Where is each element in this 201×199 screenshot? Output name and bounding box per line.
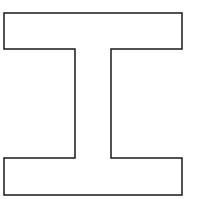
- i-beam-outline: [4, 13, 182, 195]
- diagram-canvas: [0, 0, 201, 199]
